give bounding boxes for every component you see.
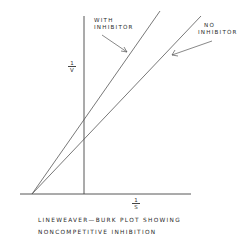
caption-line-1: LINEWEAVER—BURK PLOT SHOWING — [38, 217, 181, 223]
no-inhibitor-label-line2: INHIBITOR — [198, 29, 238, 36]
with-inhibitor-label-line1: WITH — [94, 17, 134, 24]
x-axis-label-numerator: 1 — [132, 197, 140, 204]
x-axis-label-denominator: S — [132, 204, 140, 210]
x-axis-label: 1 S — [132, 197, 140, 210]
no-inhibitor-arrow — [172, 41, 212, 56]
y-axis-label-denominator: V — [68, 67, 76, 73]
lineweaver-burk-figure: WITH INHIBITOR NO INHIBITOR 1 V 1 S LINE… — [0, 0, 247, 243]
with-inhibitor-label-line2: INHIBITOR — [94, 24, 134, 31]
caption-line-2: NONCOMPETITIVE INHIBITION — [38, 229, 156, 235]
plot-canvas — [0, 0, 247, 243]
no-inhibitor-line — [32, 16, 201, 194]
with-inhibitor-line — [32, 11, 160, 194]
with-inhibitor-label: WITH INHIBITOR — [94, 17, 134, 31]
y-axis-label: 1 V — [68, 60, 76, 73]
no-inhibitor-label: NO INHIBITOR — [198, 22, 238, 36]
with-inhibitor-arrow — [102, 35, 127, 52]
y-axis-label-numerator: 1 — [68, 60, 76, 67]
no-inhibitor-label-line1: NO — [198, 22, 238, 29]
